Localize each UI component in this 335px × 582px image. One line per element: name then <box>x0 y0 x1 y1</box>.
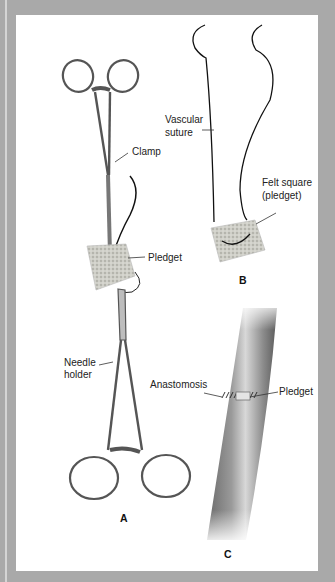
label-felt-line1: Felt square <box>262 177 312 189</box>
clamp-instrument <box>58 56 142 255</box>
vascular-suture <box>193 25 273 222</box>
label-needle-line2: holder <box>64 369 92 381</box>
label-vascular-line1: Vascular <box>165 114 203 126</box>
pledget-a <box>87 244 135 290</box>
needle-holder-instrument <box>70 289 190 499</box>
panel-label-a: A <box>120 512 128 524</box>
panel-label-b: B <box>239 274 247 286</box>
blood-vessel <box>207 308 277 540</box>
label-pledget-a: Pledget <box>148 252 182 264</box>
label-anastomosis: Anastomosis <box>150 379 207 391</box>
felt-square <box>211 220 265 262</box>
label-needle-line1: Needle <box>64 357 96 369</box>
label-clamp: Clamp <box>132 146 161 158</box>
pledget-c <box>236 392 250 400</box>
panel-label-c: C <box>224 548 232 560</box>
figure-illustration <box>0 0 335 582</box>
label-pledget-c: Pledget <box>279 386 313 398</box>
label-felt-line2: (pledget) <box>262 190 301 202</box>
label-vascular-line2: suture <box>165 127 193 139</box>
